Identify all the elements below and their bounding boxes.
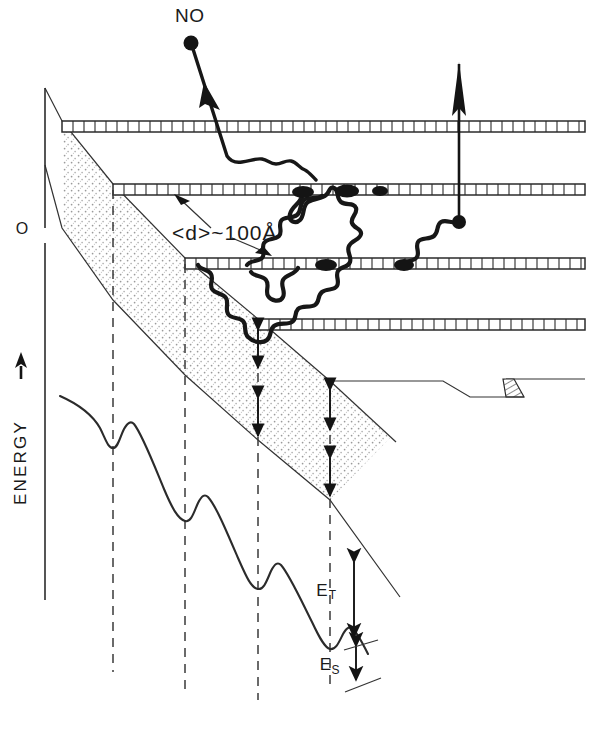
chain-anchor-blob-4 xyxy=(394,259,414,271)
layer-3-body xyxy=(185,258,585,269)
no-trajectory-path xyxy=(193,49,316,180)
right-shelf-outline xyxy=(330,381,506,397)
chain-anchor-blob-5 xyxy=(372,186,388,196)
et-label-base: E xyxy=(316,581,328,600)
energy-axis-arrow xyxy=(15,352,27,368)
escape-arrow-head xyxy=(452,62,466,116)
layer-row-3 xyxy=(185,258,585,269)
no-label: NO xyxy=(175,5,205,26)
layer-row-1 xyxy=(62,121,585,132)
y-axis-group: O xyxy=(16,88,45,600)
et-label: ET xyxy=(316,581,337,602)
spacing-arrowhead-lower xyxy=(255,246,272,256)
figure-root: O ET ES xyxy=(0,0,600,729)
chain-anchor-blob-2 xyxy=(335,185,359,198)
chain-anchor-blob-3 xyxy=(315,259,337,271)
no-trajectory-group: NO xyxy=(175,5,316,180)
energy-axis-label-group: ENERGY xyxy=(11,352,30,505)
polymer-chain-loop-lower xyxy=(251,268,298,301)
es-label-subscript: S xyxy=(331,663,340,677)
layer-1-body xyxy=(62,121,585,132)
et-label-subscript: T xyxy=(329,588,337,602)
shelf-hatched-wedge xyxy=(503,379,524,397)
es-lower-reference-line xyxy=(345,678,381,692)
escape-arrow-group xyxy=(452,62,466,229)
energy-axis-label: ENERGY xyxy=(11,420,30,505)
layer-row-4 xyxy=(258,319,585,330)
es-label-base: E xyxy=(320,655,332,674)
no-molecule-dot xyxy=(184,36,199,51)
layer-4-body xyxy=(258,319,585,330)
right-shelf-group xyxy=(330,379,585,397)
es-label: ES xyxy=(320,655,340,677)
energy-diagram-svg: O ET ES xyxy=(0,0,600,729)
axis-origin-label: O xyxy=(16,220,28,237)
chain-anchor-blob-1 xyxy=(292,186,314,198)
spacing-label: <d>~100Å xyxy=(172,221,278,244)
